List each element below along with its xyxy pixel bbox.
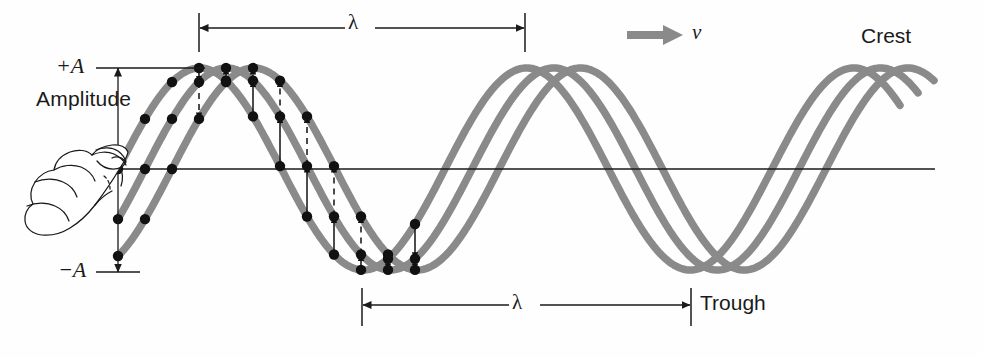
particle-dot	[302, 211, 312, 221]
trough-label: Trough	[700, 292, 766, 313]
amplitude-label: Amplitude	[36, 88, 131, 109]
particle-dot	[356, 265, 366, 275]
velocity-label: v	[692, 22, 701, 43]
lambda-top-dimension	[199, 13, 525, 52]
particle-dot	[167, 77, 177, 87]
particle-dot	[248, 75, 258, 85]
particle-dot	[383, 265, 393, 275]
particle-dot	[356, 249, 366, 259]
wave-diagram: +A Amplitude −A λ λ v Crest Trough	[0, 0, 983, 358]
hand-icon	[25, 145, 128, 235]
particle-dot	[329, 211, 339, 221]
lambda-bottom-label: λ	[512, 292, 522, 313]
minus-amplitude-label: −A	[58, 259, 86, 281]
particle-dot	[194, 77, 204, 87]
particle-dot	[194, 114, 204, 124]
particle-dot	[410, 254, 420, 264]
particle-dot	[302, 161, 312, 171]
particle-dot	[221, 77, 231, 87]
particle-dot	[221, 63, 231, 73]
velocity-arrow-icon	[627, 25, 683, 45]
lambda-bottom-dimension	[362, 288, 691, 326]
lambda-top-label: λ	[348, 12, 358, 33]
wave-diagram-canvas	[0, 0, 983, 358]
particle-dot	[140, 114, 150, 124]
particle-dot	[167, 114, 177, 124]
particle-dot	[329, 249, 339, 259]
particle-dot	[248, 63, 258, 73]
particle-dot	[140, 164, 150, 174]
particle-dot	[356, 211, 366, 221]
particle-dot	[410, 265, 420, 275]
particle-dot	[383, 249, 393, 259]
particle-dot	[248, 111, 258, 121]
particle-dot	[140, 214, 150, 224]
particle-dot	[275, 111, 285, 121]
particle-dot	[167, 164, 177, 174]
particle-dot	[275, 75, 285, 85]
particle-dot	[275, 161, 285, 171]
crest-label: Crest	[861, 25, 911, 46]
plus-amplitude-label: +A	[56, 55, 84, 77]
particle-dot	[410, 219, 420, 229]
particle-dot	[329, 161, 339, 171]
particle-dot	[302, 111, 312, 121]
